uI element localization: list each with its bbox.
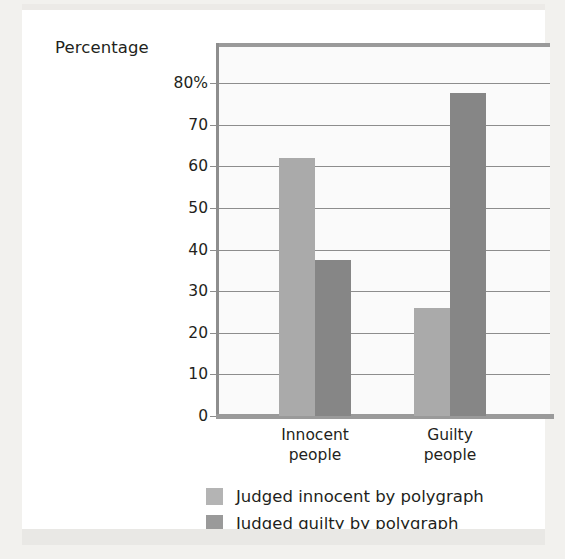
chart-figure-card: Percentage 01020304050607080% Innocentpe… <box>22 10 545 529</box>
category-label-line-1: Guilty <box>370 425 530 445</box>
y-tick-label-40: 40 <box>188 241 208 259</box>
y-tick-mark-0 <box>210 416 216 417</box>
legend-item-judged-innocent: Judged innocent by polygraph <box>206 483 546 510</box>
y-tick-label-80: 80% <box>174 74 208 92</box>
category-label-guilty-people: Guiltypeople <box>370 425 530 465</box>
legend-swatch-icon-light <box>206 488 223 505</box>
bar-innocent-judged-innocent <box>279 158 315 416</box>
bar-guilty-judged-innocent <box>414 308 450 416</box>
category-label-line-2: people <box>370 445 530 465</box>
y-tick-label-0: 0 <box>198 407 208 425</box>
legend-label-judged-innocent: Judged innocent by polygraph <box>236 487 484 506</box>
y-axis-tick-labels: 01020304050607080% <box>118 43 208 416</box>
y-tick-label-60: 60 <box>188 157 208 175</box>
bar-innocent-judged-guilty <box>315 260 351 416</box>
bars-group <box>216 43 554 416</box>
y-tick-label-20: 20 <box>188 324 208 342</box>
page-bottom-edge-strip <box>22 529 545 545</box>
y-tick-label-50: 50 <box>188 199 208 217</box>
y-tick-label-70: 70 <box>188 116 208 134</box>
y-tick-label-30: 30 <box>188 282 208 300</box>
bar-guilty-judged-guilty <box>450 93 486 416</box>
y-tick-label-10: 10 <box>188 365 208 383</box>
